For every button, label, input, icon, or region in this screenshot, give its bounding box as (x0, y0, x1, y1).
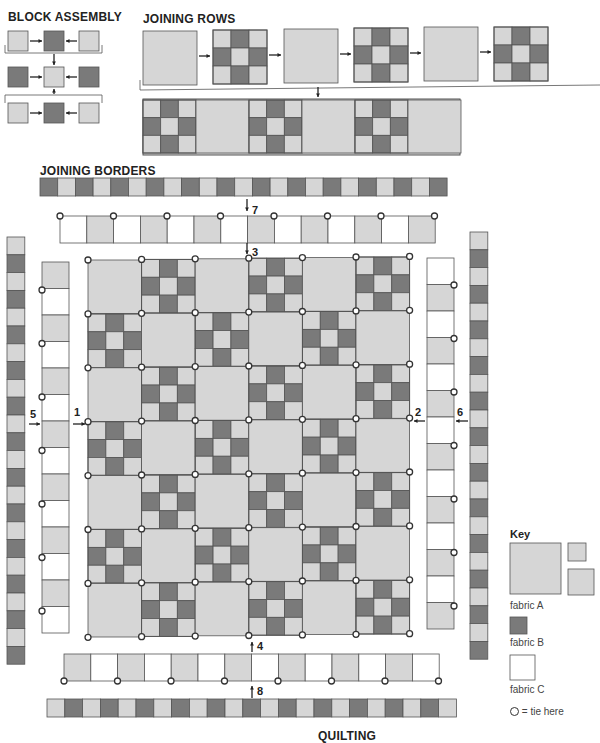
border-square (470, 285, 488, 303)
quilt-plain-block (142, 421, 196, 475)
assembly-square (79, 103, 99, 123)
tie-icon (299, 578, 305, 584)
border-square (386, 654, 413, 681)
tie-icon (39, 608, 45, 614)
tie-icon (432, 213, 438, 219)
border-square (470, 552, 488, 570)
border-square (252, 178, 270, 196)
key-fabric-c (510, 655, 535, 680)
border-square (403, 699, 421, 717)
tie-icon (139, 364, 145, 370)
border-square (394, 178, 412, 196)
tie-icon (139, 256, 145, 262)
border-square (154, 699, 172, 717)
border-square (470, 232, 488, 250)
arrow-head-icon (52, 61, 56, 65)
border-square (427, 576, 454, 603)
quilt-plain-block (356, 419, 410, 473)
tie-icon (246, 309, 252, 315)
tie-icon (451, 603, 457, 609)
plain-block (302, 100, 355, 153)
step-7: 7 (252, 204, 258, 216)
border-square (359, 654, 386, 681)
border-square (470, 392, 488, 410)
tie-icon (382, 678, 388, 684)
border-square (385, 699, 403, 717)
border-square (470, 321, 488, 339)
border-square (42, 501, 69, 528)
key-tie-legend: = tie here (510, 706, 564, 717)
tie-icon (451, 336, 457, 342)
border-square (427, 417, 454, 444)
key-fabric-b-label: fabric B (510, 637, 544, 648)
tie-icon (139, 418, 145, 424)
border-square (217, 178, 235, 196)
key-fabric-a-label: fabric A (510, 600, 543, 611)
tie-icon (192, 364, 198, 370)
border-square (470, 517, 488, 535)
arrow-head-icon (66, 75, 70, 79)
tie-icon (353, 362, 359, 368)
border-square (332, 699, 350, 717)
border-square (470, 357, 488, 375)
border-square (323, 178, 341, 196)
tie-icon (85, 473, 91, 479)
quilt-plain-block (356, 527, 410, 581)
border-square (7, 326, 25, 344)
border-square (42, 289, 69, 316)
tie-icon (222, 678, 228, 684)
border-square (42, 395, 69, 422)
tie-icon (192, 525, 198, 531)
border-square (7, 415, 25, 433)
tie-icon (85, 527, 91, 533)
border-square (60, 216, 87, 243)
border-square (470, 641, 488, 659)
border-square (314, 699, 332, 717)
assembly-square (79, 67, 99, 87)
tie-icon (299, 524, 305, 530)
quilt-plain-block (142, 313, 196, 367)
tie-icon (353, 524, 359, 530)
arrow-head-icon (456, 419, 460, 423)
border-square (198, 654, 225, 681)
tie-icon (407, 307, 413, 313)
border-square (367, 699, 385, 717)
quilt-plain-block (302, 473, 356, 527)
border-square (42, 342, 69, 369)
border-square (7, 557, 25, 575)
border-square (470, 446, 488, 464)
tie-icon (39, 501, 45, 507)
arrow-head-icon (414, 419, 418, 423)
tie-icon (407, 469, 413, 475)
border-square (274, 216, 301, 243)
tie-icon (85, 365, 91, 371)
tie-icon (192, 256, 198, 262)
tie-icon (39, 341, 45, 347)
border-square (470, 428, 488, 446)
border-square (421, 699, 439, 717)
arrow-head-icon (277, 53, 281, 57)
quilt-plain-block (302, 581, 356, 635)
arrow-head-icon (38, 75, 42, 79)
border-square (350, 699, 368, 717)
border-square (7, 593, 25, 611)
border-square (7, 290, 25, 308)
tie-icon (139, 472, 145, 478)
border-square (114, 216, 141, 243)
tie-icon (57, 213, 63, 219)
border-square (40, 178, 58, 196)
tie-icon (164, 213, 170, 219)
border-square (7, 611, 25, 629)
tie-icon (299, 362, 305, 368)
border-square (7, 237, 25, 255)
border-square (225, 699, 243, 717)
tie-icon (329, 678, 335, 684)
border-square (7, 362, 25, 380)
arrow-head-icon (250, 686, 254, 690)
arrow-head-icon (66, 39, 70, 43)
plain-block (284, 29, 338, 83)
tie-icon (275, 678, 281, 684)
tie-icon (353, 308, 359, 314)
border-square (252, 654, 279, 681)
border-square (408, 216, 435, 243)
